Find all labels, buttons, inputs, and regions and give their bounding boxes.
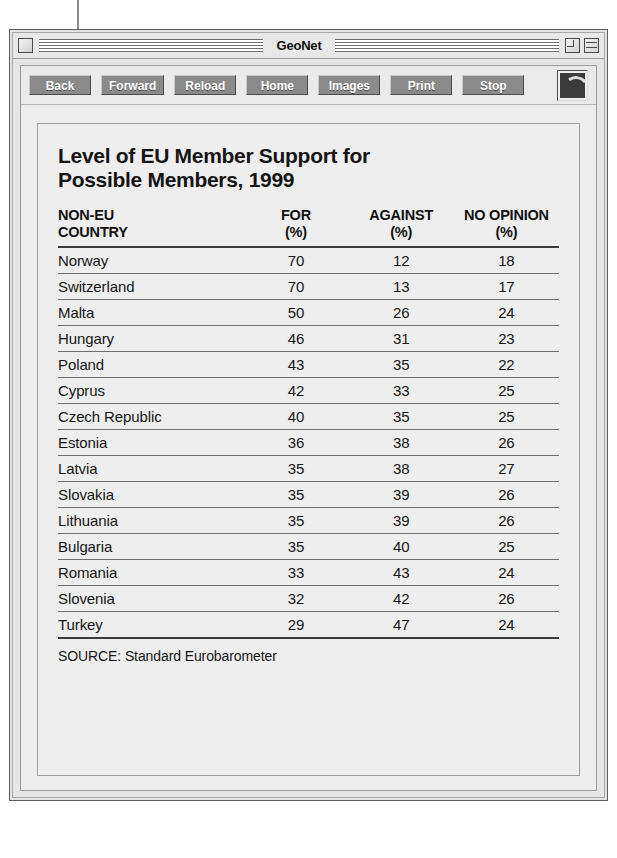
cell-country: Slovenia bbox=[58, 585, 243, 611]
column-header-for-line2: (%) bbox=[285, 224, 307, 240]
table-row: Hungary463123 bbox=[58, 325, 559, 351]
window-title: GeoNet bbox=[269, 38, 328, 53]
table-row: Czech Republic403525 bbox=[58, 403, 559, 429]
browser-content-frame: Back Forward Reload Home Images Print St… bbox=[20, 65, 597, 791]
cell-no-opinion: 17 bbox=[454, 273, 559, 299]
cell-no-opinion: 26 bbox=[454, 481, 559, 507]
title-bar-stripes-left bbox=[39, 39, 263, 52]
cell-for: 32 bbox=[243, 585, 348, 611]
title-bar-stripes-right bbox=[335, 39, 559, 52]
cell-no-opinion: 26 bbox=[454, 429, 559, 455]
cell-against: 31 bbox=[349, 325, 454, 351]
cell-no-opinion: 26 bbox=[454, 507, 559, 533]
cell-against: 40 bbox=[349, 533, 454, 559]
cell-against: 33 bbox=[349, 377, 454, 403]
cell-for: 70 bbox=[243, 247, 348, 274]
cell-country: Latvia bbox=[58, 455, 243, 481]
column-header-for: FOR (%) bbox=[243, 207, 348, 247]
table-row: Estonia363826 bbox=[58, 429, 559, 455]
cell-against: 43 bbox=[349, 559, 454, 585]
zoom-box-icon[interactable] bbox=[565, 38, 580, 53]
cell-no-opinion: 25 bbox=[454, 403, 559, 429]
cell-for: 70 bbox=[243, 273, 348, 299]
close-box-icon[interactable] bbox=[18, 38, 33, 53]
table-row: Cyprus423325 bbox=[58, 377, 559, 403]
cell-for: 50 bbox=[243, 299, 348, 325]
cell-against: 39 bbox=[349, 481, 454, 507]
crop-tick-mark bbox=[77, 0, 79, 29]
cell-against: 13 bbox=[349, 273, 454, 299]
cell-no-opinion: 18 bbox=[454, 247, 559, 274]
column-header-country-line1: NON-EU bbox=[58, 207, 114, 223]
column-header-against-line2: (%) bbox=[390, 224, 412, 240]
cell-country: Cyprus bbox=[58, 377, 243, 403]
cell-no-opinion: 24 bbox=[454, 559, 559, 585]
cell-for: 29 bbox=[243, 611, 348, 638]
table-body: Norway701218Switzerland701317Malta502624… bbox=[58, 247, 559, 638]
cell-against: 38 bbox=[349, 455, 454, 481]
cell-against: 26 bbox=[349, 299, 454, 325]
cell-no-opinion: 23 bbox=[454, 325, 559, 351]
cell-against: 39 bbox=[349, 507, 454, 533]
windowshade-box-icon[interactable] bbox=[584, 38, 599, 53]
cell-country: Romania bbox=[58, 559, 243, 585]
stop-button[interactable]: Stop bbox=[462, 75, 524, 95]
cell-for: 43 bbox=[243, 351, 348, 377]
table-row: Malta502624 bbox=[58, 299, 559, 325]
title-bar-controls bbox=[565, 38, 599, 53]
cell-no-opinion: 25 bbox=[454, 533, 559, 559]
column-header-for-line1: FOR bbox=[281, 207, 311, 223]
cell-country: Turkey bbox=[58, 611, 243, 638]
page-viewport: Level of EU Member Support for Possible … bbox=[21, 106, 596, 790]
cell-against: 38 bbox=[349, 429, 454, 455]
table-row: Slovenia324226 bbox=[58, 585, 559, 611]
cell-for: 36 bbox=[243, 429, 348, 455]
print-button[interactable]: Print bbox=[390, 75, 452, 95]
cell-against: 42 bbox=[349, 585, 454, 611]
cell-for: 35 bbox=[243, 455, 348, 481]
column-header-against-line1: AGAINST bbox=[369, 207, 433, 223]
home-button[interactable]: Home bbox=[246, 75, 308, 95]
table-row: Latvia353827 bbox=[58, 455, 559, 481]
cell-for: 46 bbox=[243, 325, 348, 351]
forward-button[interactable]: Forward bbox=[101, 75, 164, 95]
cell-for: 40 bbox=[243, 403, 348, 429]
window-inner-frame: GeoNet Back Forward Reload Home Images P… bbox=[12, 32, 605, 798]
column-header-no-opinion-line1: NO OPINION bbox=[464, 207, 549, 223]
cell-for: 35 bbox=[243, 533, 348, 559]
table-row: Switzerland701317 bbox=[58, 273, 559, 299]
cell-country: Switzerland bbox=[58, 273, 243, 299]
browser-toolbar: Back Forward Reload Home Images Print St… bbox=[21, 66, 596, 105]
cell-country: Malta bbox=[58, 299, 243, 325]
cell-for: 35 bbox=[243, 507, 348, 533]
cell-no-opinion: 26 bbox=[454, 585, 559, 611]
cell-for: 35 bbox=[243, 481, 348, 507]
cell-no-opinion: 22 bbox=[454, 351, 559, 377]
support-table: NON-EU COUNTRY FOR (%) AGAINST (%) bbox=[58, 207, 559, 639]
table-row: Slovakia353926 bbox=[58, 481, 559, 507]
table-row: Lithuania353926 bbox=[58, 507, 559, 533]
images-button[interactable]: Images bbox=[318, 75, 380, 95]
column-header-country-line2: COUNTRY bbox=[58, 224, 128, 240]
browser-window: GeoNet Back Forward Reload Home Images P… bbox=[9, 29, 608, 801]
table-header-row: NON-EU COUNTRY FOR (%) AGAINST (%) bbox=[58, 207, 559, 247]
table-head: NON-EU COUNTRY FOR (%) AGAINST (%) bbox=[58, 207, 559, 247]
cell-country: Czech Republic bbox=[58, 403, 243, 429]
table-row: Romania334324 bbox=[58, 559, 559, 585]
cell-no-opinion: 25 bbox=[454, 377, 559, 403]
table-row: Norway701218 bbox=[58, 247, 559, 274]
cell-country: Poland bbox=[58, 351, 243, 377]
reload-button[interactable]: Reload bbox=[174, 75, 236, 95]
cell-for: 33 bbox=[243, 559, 348, 585]
browser-logo-button[interactable] bbox=[557, 70, 588, 101]
cell-for: 42 bbox=[243, 377, 348, 403]
column-header-no-opinion: NO OPINION (%) bbox=[454, 207, 559, 247]
cell-country: Slovakia bbox=[58, 481, 243, 507]
window-title-bar[interactable]: GeoNet bbox=[13, 33, 604, 59]
back-button[interactable]: Back bbox=[29, 75, 91, 95]
column-header-no-opinion-line2: (%) bbox=[495, 224, 517, 240]
cell-no-opinion: 24 bbox=[454, 299, 559, 325]
cell-against: 12 bbox=[349, 247, 454, 274]
browser-logo-icon bbox=[560, 73, 585, 98]
cell-country: Bulgaria bbox=[58, 533, 243, 559]
